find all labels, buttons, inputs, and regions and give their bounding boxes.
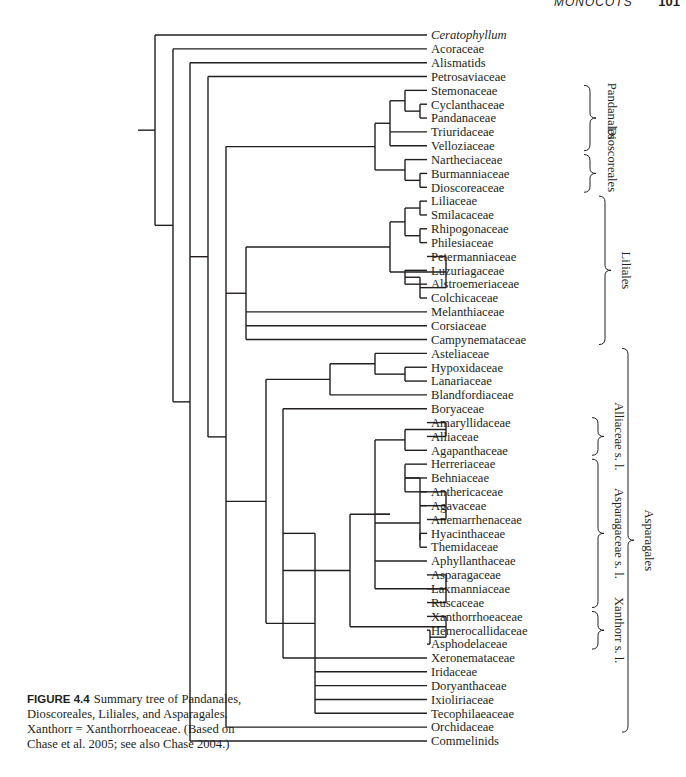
group-label: Asparagaceae s. l. [612, 488, 626, 579]
leaf-label: Smilacaceae [431, 208, 494, 222]
leaf-label: Melanthiaceae [431, 305, 505, 319]
leaf-labels: CeratophyllumAcoraceaeAlismatidsPetrosav… [431, 28, 528, 748]
tree-branches [138, 35, 446, 741]
group-bracket [592, 611, 604, 649]
leaf-label: Petrosaviaceae [431, 70, 506, 84]
leaf-label: Tecophilaeaceae [431, 707, 514, 721]
leaf-label: Iridaceae [431, 665, 478, 679]
leaf-label: Orchidaceae [431, 720, 494, 734]
leaf-label: Acoraceae [431, 42, 485, 56]
leaf-label: Lanariaceae [431, 374, 492, 388]
leaf-label: Pandanaceae [431, 111, 496, 125]
leaf-label: Luzuriagaceae [431, 264, 505, 278]
leaf-label: Alliaceae [431, 430, 479, 444]
leaf-label: Agapanthaceae [431, 444, 508, 458]
leaf-label: Laxmanniaceae [431, 582, 510, 596]
leaf-label: Hemerocallidaceae [431, 624, 528, 638]
leaf-label: Themidaceae [431, 540, 499, 554]
leaf-label: Alismatids [431, 56, 486, 70]
leaf-label: Hypoxidaceae [431, 361, 503, 375]
leaf-label: Stemonaceae [431, 84, 498, 98]
leaf-label: Boryaceae [431, 402, 485, 416]
leaf-label: Hyacinthaceae [431, 527, 506, 541]
group-label: Liliales [619, 251, 633, 289]
group-bracket [592, 459, 604, 607]
figure-label: FIGURE 4.4 [27, 693, 90, 705]
group-label: Xanthorr s. l. [612, 597, 626, 663]
group-bracket [584, 85, 596, 150]
leaf-label: Campynemataceae [431, 333, 527, 347]
leaf-label: Alstroemeriaceae [431, 277, 520, 291]
leaf-label: Cyclanthaceae [431, 98, 505, 112]
leaf-label: Aphyllanthaceae [431, 554, 516, 568]
group-label: Asparagales [642, 510, 656, 572]
leaf-label: Burmanniaceae [431, 167, 510, 181]
leaf-label: Blandfordiaceae [431, 388, 514, 402]
leaf-label: Corsiaceae [431, 319, 487, 333]
leaf-label: Agavaceae [431, 499, 487, 513]
group-bracket [592, 418, 604, 456]
group-bracket [599, 196, 611, 344]
group-bracket [584, 155, 596, 193]
figure-caption: FIGURE 4.4Summary tree of Pandanales, Di… [27, 692, 267, 752]
leaf-label: Liliaceae [431, 194, 478, 208]
leaf-label: Commelinids [431, 734, 499, 748]
leaf-label: Triuridaceae [431, 125, 495, 139]
leaf-label: Xanthorrhoeaceae [431, 610, 523, 624]
leaf-label: Xeronemataceae [431, 651, 515, 665]
leaf-label: Ceratophyllum [431, 28, 507, 42]
leaf-label: Anthericaceae [431, 485, 503, 499]
leaf-label: Colchicaceae [431, 291, 499, 305]
phylogenetic-tree: CeratophyllumAcoraceaeAlismatidsPetrosav… [0, 0, 686, 777]
leaf-label: Anemarrhenaceae [431, 513, 522, 527]
leaf-label: Doryanthaceae [431, 679, 507, 693]
group-label: Dioscoreales [605, 127, 619, 192]
group-label: Alliaceae s. l. [612, 402, 626, 471]
leaf-label: Amaryllidaceae [431, 416, 511, 430]
leaf-label: Asphodelaceae [431, 637, 508, 651]
group-brackets: PandanalesDioscorealesLilialesAlliaceae … [584, 83, 656, 732]
leaf-label: Rhipogonaceae [431, 222, 509, 236]
leaf-label: Behniaceae [431, 471, 489, 485]
leaf-label: Philesiaceae [431, 236, 494, 250]
leaf-label: Nartheciaceae [431, 153, 503, 167]
leaf-label: Ixioliriaceae [431, 693, 494, 707]
leaf-label: Herreriaceae [431, 457, 496, 471]
leaf-label: Velloziaceae [431, 139, 495, 153]
leaf-label: Ruscaceae [431, 596, 485, 610]
leaf-label: Dioscoreaceae [431, 181, 505, 195]
leaf-label: Asteliaceae [431, 347, 489, 361]
leaf-label: Asparagaceae [431, 568, 501, 582]
leaf-label: Petermanniaceae [431, 250, 517, 264]
